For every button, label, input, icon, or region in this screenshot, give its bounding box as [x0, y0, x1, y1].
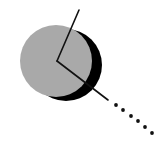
disc-illustration-icon	[0, 0, 158, 152]
dot-1	[114, 103, 118, 107]
dot-2	[121, 108, 125, 112]
dot-6	[150, 131, 154, 135]
dotted-continuation	[114, 103, 154, 135]
dot-3	[129, 114, 133, 118]
dot-4	[136, 119, 140, 123]
illustration-canvas: Gray disc with drop shadow, two radial l…	[0, 0, 158, 152]
dot-5	[143, 125, 147, 129]
gray-disc	[20, 25, 92, 97]
